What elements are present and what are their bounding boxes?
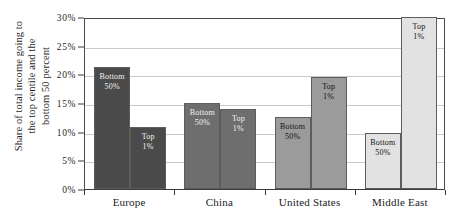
bar-label-line2: 1% xyxy=(413,32,424,42)
y-axis-tick-label: 20% xyxy=(36,70,76,80)
plot-area: Bottom50%Top1%Bottom50%Top1%Bottom50%Top… xyxy=(84,18,445,190)
bar-group: Bottom50%Top1% xyxy=(175,19,265,189)
bar: Top1% xyxy=(220,109,256,189)
x-axis-tick-label: China xyxy=(206,196,233,208)
y-axis-tick-label: 0% xyxy=(36,185,76,195)
bars-layer: Bottom50%Top1%Bottom50%Top1%Bottom50%Top… xyxy=(85,19,444,189)
y-axis-tick-label: 15% xyxy=(36,99,76,109)
bar-label-line1: Top xyxy=(232,114,245,124)
x-axis-tick-mark xyxy=(445,190,446,195)
x-axis-tick-labels: EuropeChinaUnited StatesMiddle East xyxy=(84,196,445,218)
bar-label-line2: 50% xyxy=(104,82,119,92)
bar-label-line1: Bottom xyxy=(190,108,215,118)
bar: Top1% xyxy=(311,77,347,189)
x-axis-tick-mark xyxy=(174,190,175,195)
bar-label-line2: 50% xyxy=(375,148,390,158)
y-axis-tick-labels: 0%5%10%15%20%25%30% xyxy=(36,0,76,221)
bar-label-line1: Bottom xyxy=(370,138,395,148)
bar-label-line1: Top xyxy=(322,82,335,92)
y-axis-tick-label: 5% xyxy=(36,156,76,166)
bar-label-line1: Top xyxy=(412,22,425,32)
bar-label-line2: 1% xyxy=(233,124,244,134)
bar-label-line1: Bottom xyxy=(100,72,125,82)
y-axis-tick-label: 30% xyxy=(36,13,76,23)
bar-chart: Share of total income going to the top c… xyxy=(0,0,453,221)
x-axis-tick-label: United States xyxy=(279,196,341,208)
bar: Top1% xyxy=(130,127,166,189)
bar: Top1% xyxy=(401,17,437,189)
bar-label-line2: 50% xyxy=(195,118,210,128)
bar-group: Bottom50%Top1% xyxy=(85,19,175,189)
bar-label-line2: 50% xyxy=(285,132,300,142)
bar-group: Bottom50%Top1% xyxy=(266,19,356,189)
y-axis-tick-label: 10% xyxy=(36,128,76,138)
y-axis-tick-label: 25% xyxy=(36,42,76,52)
x-axis-tick-mark xyxy=(355,190,356,195)
bar: Bottom50% xyxy=(365,133,401,189)
bar: Bottom50% xyxy=(275,117,311,189)
bar-label-line1: Bottom xyxy=(280,122,305,132)
bar-label-line2: 1% xyxy=(323,92,334,102)
x-axis-tick-label: Europe xyxy=(113,196,146,208)
x-axis-tick-mark xyxy=(265,190,266,195)
bar: Bottom50% xyxy=(184,103,220,189)
x-axis-tick-mark xyxy=(84,190,85,195)
bar-group: Bottom50%Top1% xyxy=(356,19,446,189)
bar-label-line1: Top xyxy=(142,132,155,142)
bar-label-line2: 1% xyxy=(143,142,154,152)
x-axis-tick-label: Middle East xyxy=(372,196,428,208)
bar: Bottom50% xyxy=(94,67,130,189)
